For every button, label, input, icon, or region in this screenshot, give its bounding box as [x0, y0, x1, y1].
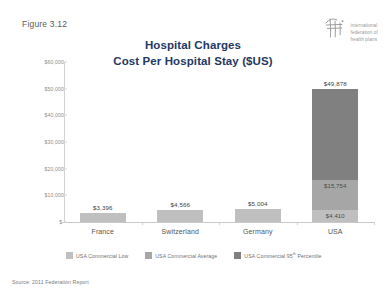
chart-plot-area: $3,396$4,566$5,004$15,754$4,410$49,878 F… [0, 58, 386, 236]
bar-segment[interactable]: $15,754 [312, 180, 358, 210]
figure-label: Figure 3.12 [22, 19, 67, 29]
source-note: Source: 2011 Federation Report [12, 279, 89, 285]
bar-slot[interactable]: $5,004 [219, 62, 297, 222]
bar-total-label: $5,004 [235, 200, 281, 207]
legend-label: USA Commercial 95th Percentile [244, 252, 321, 259]
x-axis-label-usa: USA [297, 228, 375, 235]
chart-legend: USA Commercial LowUSA Commercial Average… [66, 252, 322, 259]
y-axis-tick-label: $20,000 [0, 166, 68, 172]
logo-line-1: international [351, 22, 379, 29]
legend-item[interactable]: USA Commercial 95th Percentile [234, 252, 321, 259]
y-axis-tick-label: $30,000 [0, 139, 68, 145]
bar-segment[interactable] [312, 89, 358, 180]
legend-label: USA Commercial Low [76, 253, 128, 259]
y-axis-tick-label: $50,000 [0, 86, 68, 92]
bar-group: $3,396$4,566$5,004$15,754$4,410$49,878 [64, 62, 374, 222]
x-axis-tick-mark [297, 222, 298, 225]
y-axis-tick-label: $60,000 [0, 59, 68, 65]
x-axis-labels: FranceSwitzerlandGermanyUSA [64, 228, 374, 235]
legend-item[interactable]: USA Commercial Average [145, 252, 217, 259]
y-axis-tick-label: $40,000 [0, 112, 68, 118]
bar-total-label: $4,566 [157, 201, 203, 208]
x-axis-label-germany: Germany [219, 228, 297, 235]
ifhp-logo-text: international federation of health plans [351, 16, 379, 43]
legend-swatch [234, 252, 241, 259]
legend-swatch [66, 252, 73, 259]
x-axis-tick-mark [142, 222, 143, 225]
bar-stack[interactable]: $4,566 [157, 210, 203, 222]
y-axis-tick-mark [64, 88, 67, 89]
bar-total-label: $49,878 [312, 80, 358, 87]
x-axis-label-france: France [64, 228, 142, 235]
bar-segment[interactable] [80, 213, 126, 222]
bar-slot[interactable]: $4,566 [142, 62, 220, 222]
y-axis-tick-mark [64, 168, 67, 169]
x-axis-tick-mark [374, 222, 375, 225]
bar-stack[interactable]: $3,396 [80, 213, 126, 222]
bar-stack[interactable]: $5,004 [235, 209, 281, 222]
legend-swatch [145, 252, 152, 259]
bar-slot[interactable]: $3,396 [64, 62, 142, 222]
legend-label: USA Commercial Average [155, 253, 217, 259]
ifhp-logo-icon [322, 16, 348, 40]
logo-line-3: health plans [351, 36, 379, 43]
x-axis-tick-mark [219, 222, 220, 225]
y-axis-tick-mark [64, 62, 67, 63]
bar-total-label: $3,396 [80, 204, 126, 211]
x-axis-label-switzerland: Switzerland [142, 228, 220, 235]
y-axis-tick-mark [64, 222, 67, 223]
bar-segment[interactable]: $4,410 [312, 210, 358, 222]
bar-slot[interactable]: $15,754$4,410$49,878 [297, 62, 375, 222]
y-axis-tick-mark [64, 195, 67, 196]
bar-segment-label: $15,754 [312, 183, 358, 189]
bar-segment[interactable] [157, 210, 203, 222]
y-axis-tick-mark [64, 142, 67, 143]
bar-segment-label: $4,410 [312, 213, 358, 219]
legend-item[interactable]: USA Commercial Low [66, 252, 128, 259]
y-axis-tick-label: $- [0, 219, 68, 225]
ifhp-logo: international federation of health plans [322, 16, 379, 43]
y-axis-tick-mark [64, 115, 67, 116]
bar-stack[interactable]: $15,754$4,410$49,878 [312, 89, 358, 222]
y-axis-tick-label: $10,000 [0, 192, 68, 198]
bar-segment[interactable] [235, 209, 281, 222]
logo-line-2: federation of [351, 29, 379, 36]
